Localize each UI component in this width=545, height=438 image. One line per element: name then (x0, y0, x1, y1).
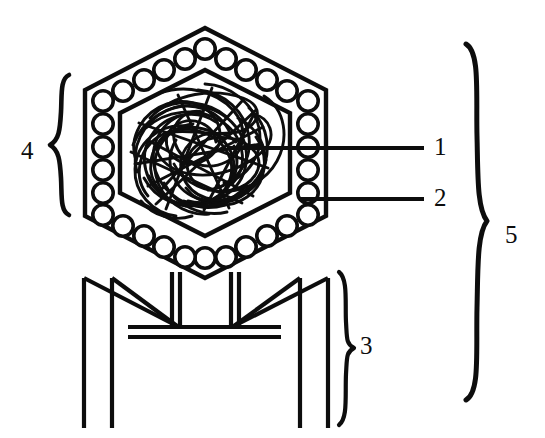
bracket-5 (466, 44, 487, 400)
bracket-3 (339, 272, 354, 425)
capsomere (154, 60, 174, 80)
head-capsid (85, 28, 326, 278)
capsomere (298, 91, 318, 111)
callout-label-2: 2 (434, 185, 447, 210)
capsomere (93, 160, 113, 180)
baseplate (128, 327, 281, 337)
capsomere (298, 160, 318, 180)
capsomere (175, 49, 195, 69)
tail-strut-left-a (84, 278, 177, 326)
capsomere (113, 81, 133, 101)
tail-sheath-left (172, 272, 180, 328)
bracket-4 (50, 75, 69, 215)
bracket-label-5: 5 (505, 222, 518, 247)
capsomere (277, 81, 297, 101)
bacteriophage-diagram (0, 0, 545, 438)
capsomere (93, 114, 113, 134)
capsomere (298, 114, 318, 134)
bracket-label-4: 4 (21, 138, 34, 163)
capsomere (113, 216, 133, 236)
capsomere (93, 137, 113, 157)
capsomere (195, 39, 215, 59)
capsomere (93, 91, 113, 111)
capsomere (236, 60, 256, 80)
capsomere (134, 226, 154, 246)
capsomere (277, 216, 297, 236)
capsomere (216, 49, 236, 69)
capsomere (195, 248, 215, 268)
tail-strut-right-a (234, 278, 328, 326)
capsomere (298, 205, 318, 225)
capsomere (175, 247, 195, 267)
capsomere (93, 205, 113, 225)
tail-assembly (84, 272, 328, 428)
capsomere (93, 183, 113, 203)
capsomere (236, 237, 256, 257)
tail-strut-right-b (234, 278, 300, 326)
capsomere (257, 70, 277, 90)
bracket-label-3: 3 (360, 333, 373, 358)
tail-strut-left-b (112, 278, 177, 326)
capsomere (154, 237, 174, 257)
callout-label-1: 1 (434, 134, 447, 159)
capsomere (134, 70, 154, 90)
tail-sheath-right (231, 272, 239, 328)
capsomere (216, 247, 236, 267)
figure-canvas: 1 2 3 4 5 (0, 0, 545, 438)
capsomere (257, 226, 277, 246)
